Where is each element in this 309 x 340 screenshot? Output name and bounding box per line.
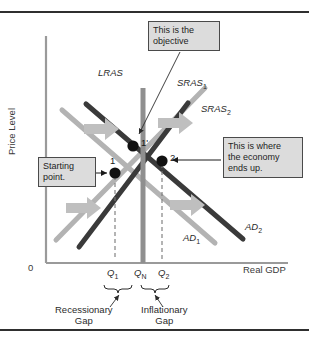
x-axis-label: Real GDP bbox=[243, 265, 286, 276]
curve-label-sras2-base: SRAS bbox=[201, 103, 227, 114]
brace-recessionary bbox=[104, 285, 132, 293]
x-tick-qn-sub: N bbox=[141, 273, 146, 280]
callout-starting-line1: Starting bbox=[43, 161, 91, 172]
callout-objective: This is the objective bbox=[148, 21, 220, 51]
curve-label-sras1: SRAS1 bbox=[177, 78, 207, 91]
curve-label-ad2-sub: 2 bbox=[258, 227, 262, 234]
curve-label-ad1-sub: 1 bbox=[196, 238, 200, 245]
label-recessionary-gap: Recessionary Gap bbox=[55, 305, 113, 326]
callout-starting-point: Starting point. bbox=[38, 157, 96, 187]
point-label-2: 2 bbox=[170, 153, 175, 164]
callout-objective-line1: This is the bbox=[153, 25, 215, 36]
callout-ends-up: This is where the economy ends up. bbox=[223, 137, 303, 178]
curve-label-lras: LRAS bbox=[98, 68, 123, 79]
callout-starting-line2: point. bbox=[43, 172, 91, 183]
callout-ends-up-line3: ends up. bbox=[228, 163, 298, 174]
curve-label-sras1-sub: 1 bbox=[203, 83, 207, 90]
curve-label-sras2: SRAS2 bbox=[201, 104, 231, 117]
origin-label: 0 bbox=[28, 263, 33, 274]
curve-label-ad2-base: AD bbox=[245, 221, 258, 232]
curve-label-sras1-base: SRAS bbox=[177, 77, 203, 88]
curve-label-ad1: AD1 bbox=[183, 233, 200, 246]
curve-label-sras2-sub: 2 bbox=[227, 109, 231, 116]
point-1 bbox=[109, 167, 120, 178]
brace-inflationary bbox=[141, 285, 169, 293]
recessionary-gap-line2: Gap bbox=[55, 316, 113, 327]
point-label-1: 1 bbox=[110, 156, 115, 167]
figure-panel: Price Level Real GDP 0 LRAS SRAS1 SRAS2 … bbox=[0, 0, 309, 340]
callout-objective-line2: objective bbox=[153, 36, 215, 47]
x-tick-qn: QN bbox=[134, 268, 146, 281]
label-inflationary-gap: Inflationary Gap bbox=[141, 305, 187, 326]
x-tick-q2-sub: 2 bbox=[165, 273, 169, 280]
x-tick-q1: Q1 bbox=[107, 268, 118, 281]
curve-label-ad2: AD2 bbox=[245, 222, 262, 235]
x-tick-q1-sub: 1 bbox=[114, 273, 118, 280]
shift-arrow-lower-right bbox=[170, 194, 205, 216]
callout-ends-up-line2: the economy bbox=[228, 152, 298, 163]
point-2 bbox=[156, 155, 167, 166]
callout-ends-up-line1: This is where bbox=[228, 141, 298, 152]
inflationary-gap-line2: Gap bbox=[141, 316, 187, 327]
curve-label-ad1-base: AD bbox=[183, 232, 196, 243]
point-1prime bbox=[127, 140, 138, 151]
point-label-1prime: 1' bbox=[141, 138, 148, 149]
x-tick-q2: Q2 bbox=[158, 268, 169, 281]
y-axis-label: Price Level bbox=[6, 99, 17, 165]
